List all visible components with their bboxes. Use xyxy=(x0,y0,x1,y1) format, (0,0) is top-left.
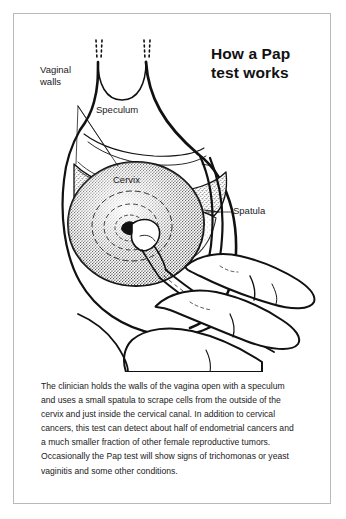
caption-text: The clinician holds the walls of the vag… xyxy=(41,379,297,478)
page-title: How a Pap test works xyxy=(211,44,321,82)
label-spatula: Spatula xyxy=(233,205,265,217)
label-vaginal-walls: Vaginal walls xyxy=(40,64,94,88)
illustration-linework xyxy=(63,40,315,372)
label-speculum: Speculum xyxy=(96,104,138,116)
label-cervix: Cervix xyxy=(113,174,140,186)
diagram-page: How a Pap test works Vaginal walls Specu… xyxy=(0,0,346,519)
speculum-blades xyxy=(80,40,198,154)
caption-paragraph: The clinician holds the walls of the vag… xyxy=(41,379,297,478)
